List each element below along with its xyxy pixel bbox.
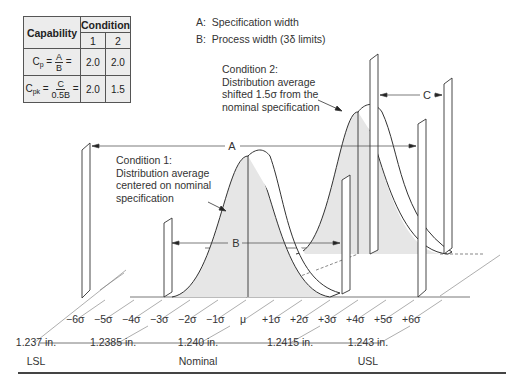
tick-minus-3sigma: −3σ [150,313,169,325]
tick-minus-4sigma: −4σ [122,313,141,325]
dimension-label-b: B [232,237,239,249]
capability-header: Capability [24,17,81,49]
condition2-line2: shifted 1.5σ from the [222,88,319,101]
tick-minus-1sigma: −1σ [206,313,225,325]
condition2-title: Condition 2: [222,63,319,76]
capability-table: Capability Condition 1 2 Cp = AB = 2.0 2… [23,16,131,103]
tick-minus-6sigma: −6σ [66,313,85,325]
cp-condition-1: 2.0 [81,49,106,76]
tick-plus-3sigma: +3σ [318,313,337,325]
measure-nominal-value: 1.240 in. [178,336,218,348]
shifted-usl-plate [444,78,452,254]
dimension-label-a: A [228,140,236,152]
cpk-denominator: 0.5B [51,90,70,100]
table-row-cp: Cp = AB = 2.0 2.0 [24,49,131,76]
condition2-lower-plate [370,54,378,254]
condition-2-header: 2 [105,33,130,49]
sigma-axis: −6σ −5σ −4σ −3σ −2σ −1σ μ +1σ +2σ +3σ +4… [66,313,421,325]
cp-fraction: AB [55,52,63,73]
table-row-cpk: Cpk = C0.5B = 2.0 1.5 [24,76,131,103]
legend-item-b: B: Process width (3δ limits) [196,31,326,48]
condition2-note: Condition 2: Distribution average shifte… [222,63,319,113]
tick-plus-2sigma: +2σ [290,313,309,325]
cp-subscript: p [40,61,44,68]
condition2-line1: Distribution average [222,76,319,89]
dimension-C [380,93,442,97]
legend-key-b: B: [196,33,206,45]
measure-plus-3sigma-value: 1.2415 in. [267,336,313,348]
legend: A: Specification width B: Process width … [196,14,326,48]
condition-1-header: 1 [81,33,106,49]
measure-usl-label: USL [358,355,379,367]
legend-text-a: Specification width [212,16,299,28]
process-lower-plate [164,218,172,297]
measurement-axis: 1.237 in. LSL 1.2385 in. 1.240 in. Nomin… [16,336,388,367]
cpk-condition-1: 2.0 [81,76,106,103]
tick-plus-4sigma: +4σ [346,313,365,325]
cp-denominator: B [56,63,62,73]
process-upper-plate-1 [342,175,350,294]
cp-symbol: C [32,56,39,67]
legend-item-a: A: Specification width [196,14,326,31]
tick-minus-5sigma: −5σ [94,313,113,325]
measure-minus-3sigma-value: 1.2385 in. [90,336,136,348]
measure-usl-value: 1.243 in. [348,336,388,348]
condition1-note: Condition 1: Distribution average center… [116,154,211,204]
condition1-line2: centered on nominal [116,179,211,192]
usl-plate [418,119,426,297]
condition2-line3: nominal specification [222,101,319,114]
condition1-line1: Distribution average [116,167,211,180]
cpk-condition-2: 1.5 [105,76,130,103]
tick-mu: μ [240,313,246,325]
condition1-line3: specification [116,192,211,205]
condition-header: Condition [81,17,131,33]
cpk-subscript: pk [33,88,40,95]
cp-numerator: A [55,52,63,63]
cp-formula: Cp = AB = [24,49,81,76]
tick-minus-2sigma: −2σ [178,313,197,325]
bottom-rule [18,372,506,374]
condition1-title: Condition 1: [116,154,211,167]
lsl-plate [82,143,90,298]
tick-plus-1sigma: +1σ [262,313,281,325]
measure-lsl-value: 1.237 in. [16,336,56,348]
legend-text-b: Process width (3δ limits) [212,33,326,45]
measure-nominal-label: Nominal [179,355,218,367]
cpk-symbol: C [25,83,32,94]
tick-plus-5sigma: +5σ [374,313,393,325]
legend-key-a: A: [196,16,206,28]
cp-condition-2: 2.0 [105,49,130,76]
cpk-fraction: C0.5B [51,79,70,100]
measure-lsl-label: LSL [27,355,46,367]
dimension-label-c: C [423,89,431,101]
cpk-numerator: C [56,79,65,90]
cpk-formula: Cpk = C0.5B = [24,76,81,103]
tick-plus-6sigma: +6σ [402,313,421,325]
